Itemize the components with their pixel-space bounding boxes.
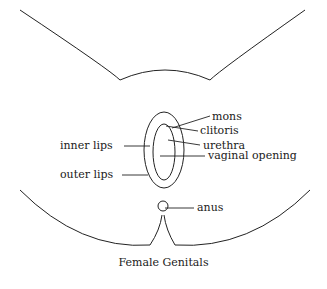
anatomical-line-drawing [0,0,327,289]
label-inner-lips: inner lips [60,139,113,152]
anatomy-diagram: mons clitoris urethra inner lips vaginal… [0,0,327,289]
label-vaginal-opening: vaginal opening [208,149,297,162]
label-mons: mons [212,110,242,123]
figure-caption: Female Genitals [0,256,327,269]
label-clitoris: clitoris [200,124,239,137]
label-outer-lips: outer lips [60,168,113,181]
label-anus: anus [197,201,223,214]
